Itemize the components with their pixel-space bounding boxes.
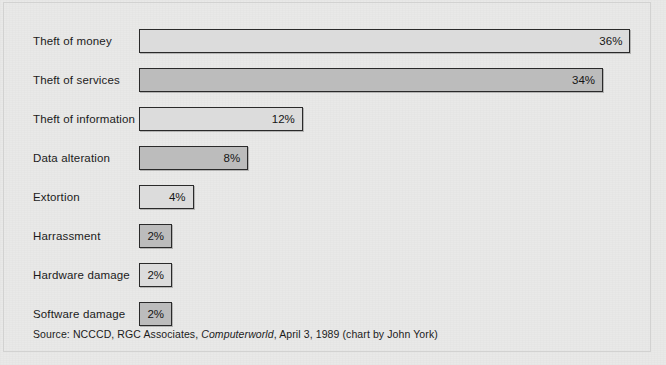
bar-value-label: 8% bbox=[212, 146, 240, 170]
category-label: Extortion bbox=[33, 177, 80, 217]
chart-row: Theft of services34% bbox=[0, 60, 666, 100]
category-label: Theft of information bbox=[33, 99, 135, 139]
bar bbox=[139, 68, 603, 92]
bar-value-label: 36% bbox=[594, 29, 622, 53]
category-label: Harrassment bbox=[33, 216, 100, 256]
chart-row: Harrassment2% bbox=[0, 216, 666, 256]
chart-row: Extortion4% bbox=[0, 177, 666, 217]
category-label: Theft of money bbox=[33, 21, 112, 61]
bar-value-label: 4% bbox=[158, 185, 186, 209]
bar-value-label: 2% bbox=[136, 302, 164, 326]
bar-value-label: 2% bbox=[136, 263, 164, 287]
chart-row: Theft of money36% bbox=[0, 21, 666, 61]
category-label: Hardware damage bbox=[33, 255, 130, 295]
source-prefix: Source: NCCCD, RGC Associates, bbox=[33, 328, 201, 340]
chart-row: Data alteration8% bbox=[0, 138, 666, 178]
source-suffix: , April 3, 1989 (chart by John York) bbox=[274, 328, 438, 340]
chart-figure: Theft of money36%Theft of services34%The… bbox=[0, 0, 666, 365]
bar-chart-plot-area: Theft of money36%Theft of services34%The… bbox=[0, 0, 666, 365]
source-caption: Source: NCCCD, RGC Associates, Computerw… bbox=[33, 328, 438, 340]
bar-value-label: 12% bbox=[267, 107, 295, 131]
chart-row: Theft of information12% bbox=[0, 99, 666, 139]
bar-value-label: 34% bbox=[567, 68, 595, 92]
category-label: Data alteration bbox=[33, 138, 110, 178]
bar bbox=[139, 29, 630, 53]
bar-value-label: 2% bbox=[136, 224, 164, 248]
chart-row: Hardware damage2% bbox=[0, 255, 666, 295]
source-publication: Computerworld bbox=[201, 328, 274, 340]
category-label: Theft of services bbox=[33, 60, 120, 100]
